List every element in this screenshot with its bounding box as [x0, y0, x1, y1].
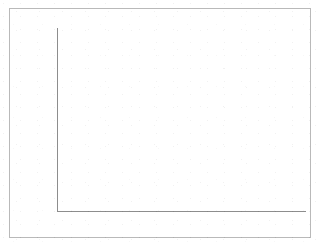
chart-figure — [0, 0, 325, 249]
plot-area — [0, 0, 325, 249]
x-axis-line — [57, 211, 306, 212]
y-axis-line — [57, 28, 58, 212]
